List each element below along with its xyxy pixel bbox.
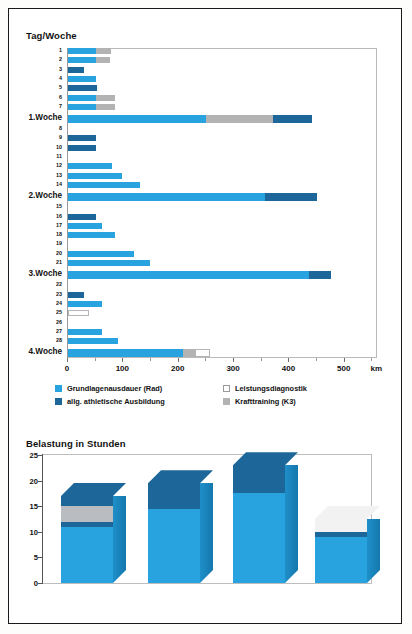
row-label: 11	[12, 153, 62, 160]
y-tick-label: 0	[16, 579, 38, 588]
legend-label: allg. athletische Ausbildung	[67, 397, 165, 406]
bar-segment-ath	[315, 532, 367, 537]
bar-segment-ath	[148, 483, 200, 509]
y-tick-label: 20	[16, 476, 38, 485]
row-bar-stack	[68, 76, 378, 82]
day-row: 9	[12, 135, 384, 141]
day-row: 19	[12, 241, 384, 247]
bar-segment-ath	[68, 67, 84, 73]
week-total-row: 2.Woche	[12, 193, 384, 202]
row-bar-stack	[68, 271, 378, 280]
day-row: 1	[12, 48, 384, 54]
top-chart-rows: 12345671.Woche8910111213142.Woche1516171…	[12, 48, 384, 358]
bottom-y-labels: 0510152025	[12, 454, 38, 584]
y-tick	[38, 557, 43, 558]
day-row: 20	[12, 251, 384, 257]
bar-side-face	[285, 465, 298, 583]
row-label: 21	[12, 259, 62, 266]
legend-swatch-diag	[223, 385, 230, 392]
row-bar-stack	[68, 57, 378, 63]
legend-label: Grundlagenausdauer (Rad)	[67, 384, 162, 393]
bar-segment-ath	[68, 214, 96, 220]
bar-segment-glb	[68, 95, 96, 101]
bar-top-face	[315, 506, 380, 519]
row-bar-stack	[68, 214, 378, 220]
day-row: 22	[12, 282, 384, 288]
bar-segment-glb	[68, 251, 134, 257]
x-tick	[233, 358, 234, 362]
row-bar-stack	[68, 241, 378, 247]
bar-segment-glb	[233, 493, 285, 583]
bar-segment-glb	[68, 349, 183, 358]
bar-segment-ath	[68, 85, 97, 91]
row-bar-stack	[68, 67, 378, 73]
row-bar-stack	[68, 204, 378, 210]
y-tick-label: 10	[16, 527, 38, 536]
day-row: 16	[12, 214, 384, 220]
y-tick-label: 25	[16, 451, 38, 460]
x-tick	[67, 358, 68, 362]
row-label: 15	[12, 203, 62, 210]
top-x-axis: km 0100200300400500	[67, 358, 378, 384]
bar-segment-ath	[309, 271, 331, 280]
screenshot-root: Tag/Woche 12345671.Woche8910111213142.Wo…	[0, 0, 412, 634]
day-row: 15	[12, 204, 384, 210]
row-label: 16	[12, 213, 62, 220]
row-bar-stack	[68, 95, 378, 101]
x-tick	[150, 358, 151, 361]
row-bar-stack	[68, 126, 378, 132]
bar-segment-glb	[68, 76, 96, 82]
bar-segment-glb	[61, 527, 113, 583]
x-tick-label: 300	[226, 364, 239, 373]
legend-swatch-ath	[55, 398, 62, 405]
row-label: 4	[12, 75, 62, 82]
row-label: 25	[12, 309, 62, 316]
row-bar-stack	[68, 104, 378, 110]
day-row: 26	[12, 320, 384, 326]
bar-segment-ath	[68, 135, 96, 141]
row-bar-stack	[68, 85, 378, 91]
x-tick	[95, 358, 96, 361]
bar-segment-glb	[68, 182, 140, 188]
row-label: 26	[12, 319, 62, 326]
row-label: 13	[12, 172, 62, 179]
week-total-row: 1.Woche	[12, 115, 384, 124]
row-label: 28	[12, 337, 62, 344]
x-tick	[316, 358, 317, 361]
x-tick	[261, 358, 262, 361]
row-label: 10	[12, 144, 62, 151]
bar-segment-ath	[68, 292, 84, 298]
row-label: 12	[12, 162, 62, 169]
bar-segment-glb	[68, 57, 96, 63]
legend-item-glb: Grundlagenausdauer (Rad)	[55, 384, 162, 393]
legend-item-ath: allg. athletische Ausbildung	[55, 397, 165, 406]
day-row: 23	[12, 292, 384, 298]
day-row: 14	[12, 182, 384, 188]
bar-front-face	[315, 519, 367, 583]
top-chart-km: Tag/Woche 12345671.Woche8910111213142.Wo…	[12, 26, 384, 376]
row-bar-stack	[68, 193, 378, 202]
bar-3d-1	[61, 483, 113, 583]
y-tick	[38, 481, 43, 482]
row-label: 3.Woche	[10, 269, 62, 279]
row-bar-stack	[68, 48, 378, 54]
row-label: 5	[12, 84, 62, 91]
day-row: 13	[12, 173, 384, 179]
y-tick-label: 5	[16, 553, 38, 562]
bottom-chart-title: Belastung in Stunden	[26, 438, 126, 449]
y-tick	[38, 583, 43, 584]
row-label: 14	[12, 181, 62, 188]
row-bar-stack	[68, 115, 378, 124]
day-row: 25	[12, 310, 384, 316]
bar-segment-diag	[195, 349, 211, 358]
row-bar-stack	[68, 173, 378, 179]
day-row: 11	[12, 154, 384, 160]
bar-top-face	[233, 452, 298, 465]
bar-side-face	[113, 496, 126, 583]
x-tick-label: 500	[337, 364, 350, 373]
legend-item-kraft: Krafttraining (K3)	[223, 397, 296, 406]
row-label: 18	[12, 231, 62, 238]
bar-segment-diag	[315, 519, 367, 532]
row-label: 17	[12, 222, 62, 229]
bar-segment-ath	[265, 193, 318, 202]
